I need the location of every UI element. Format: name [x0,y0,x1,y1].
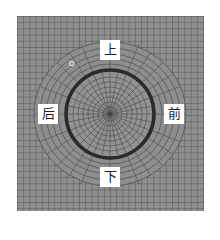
label-bottom: 下 [100,167,120,187]
label-top: 上 [100,40,120,60]
marker-d: D [69,60,74,68]
label-front: 前 [164,104,184,124]
label-back: 后 [38,104,58,124]
